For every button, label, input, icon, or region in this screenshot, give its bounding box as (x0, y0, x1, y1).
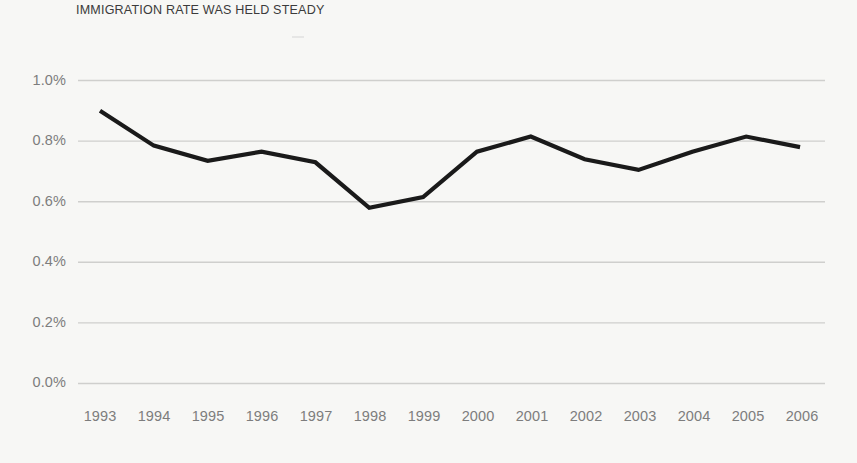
xtick-label-1993: 1993 (73, 408, 127, 424)
xtick-label-2004: 2004 (667, 408, 721, 424)
xtick-label-1994: 1994 (127, 408, 181, 424)
xtick-label-2001: 2001 (505, 408, 559, 424)
ytick-label-0.4: 0.4% (8, 253, 66, 269)
line-chart-plot (0, 0, 857, 463)
chart-figure: IMMIGRATION RATE WAS HELD STEADY 1.0% 0.… (0, 0, 857, 463)
ytick-label-0.0: 0.0% (8, 374, 66, 390)
xtick-label-2003: 2003 (613, 408, 667, 424)
data-series-line (100, 111, 800, 208)
ytick-label-0.2: 0.2% (8, 314, 66, 330)
ytick-label-0.8: 0.8% (8, 132, 66, 148)
xtick-label-2005: 2005 (721, 408, 775, 424)
xtick-label-1998: 1998 (343, 408, 397, 424)
xtick-label-1995: 1995 (181, 408, 235, 424)
xtick-label-2002: 2002 (559, 408, 613, 424)
ytick-label-1.0: 1.0% (8, 72, 66, 88)
xtick-label-1997: 1997 (289, 408, 343, 424)
xtick-label-2006: 2006 (775, 408, 829, 424)
xtick-label-2000: 2000 (451, 408, 505, 424)
xtick-label-1999: 1999 (397, 408, 451, 424)
xtick-label-1996: 1996 (235, 408, 289, 424)
gridlines (78, 81, 825, 384)
ytick-label-0.6: 0.6% (8, 193, 66, 209)
